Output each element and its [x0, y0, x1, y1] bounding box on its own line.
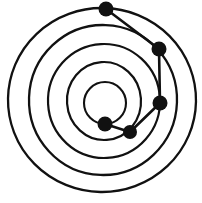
- figure-container: [0, 0, 202, 203]
- path-node-node-4: [123, 125, 137, 139]
- path-link-link-2-3: [159, 49, 160, 103]
- path-node-node-1: [99, 2, 114, 17]
- path-node-node-5: [98, 117, 113, 132]
- figure-background: [0, 0, 202, 203]
- path-node-node-2: [152, 42, 167, 57]
- path-node-node-3: [153, 96, 168, 111]
- concentric-rings-diagram: [0, 0, 202, 203]
